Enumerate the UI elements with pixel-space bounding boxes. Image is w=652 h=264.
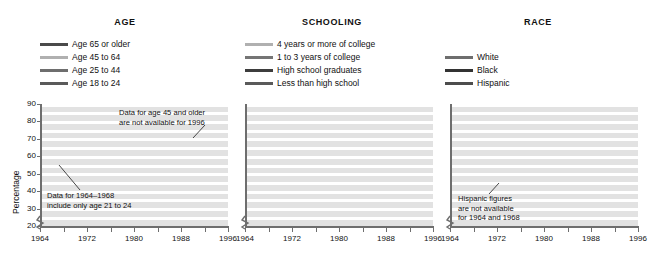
x-axis-tick-label: 1980: [120, 234, 148, 243]
x-axis-tick: [245, 228, 246, 232]
legend-label: Hispanic: [477, 78, 510, 88]
gridline: [245, 121, 433, 124]
legend-label: 4 years or more of college: [277, 39, 375, 49]
legend-item-white: White: [445, 51, 510, 63]
legend-label: Black: [477, 65, 498, 75]
legend-item-less-than-high-school: Less than high school: [245, 77, 375, 89]
x-axis-tick: [615, 228, 616, 232]
legend-swatch-icon: [245, 82, 273, 85]
annotation-leader-line-hispanic: [487, 182, 503, 196]
legend-label: Age 45 to 64: [72, 52, 120, 62]
x-axis-tick: [158, 228, 159, 232]
x-axis-tick: [410, 228, 411, 232]
legend-label: Age 18 to 24: [72, 78, 120, 88]
gridline: [450, 112, 638, 115]
x-axis-tick: [544, 228, 545, 232]
y-axis-tick-label: 40: [18, 186, 36, 195]
legend-item-age-65-or-older: Age 65 or older: [40, 38, 130, 50]
x-axis-tick: [64, 228, 65, 232]
legend-swatch-icon: [40, 82, 68, 85]
x-axis-tick-label: 1996: [624, 234, 652, 243]
gridline: [450, 165, 638, 168]
x-axis-tick: [205, 228, 206, 232]
legend-label: High school graduates: [277, 65, 362, 75]
legend-item-high-school-graduates: High school graduates: [245, 64, 375, 76]
gridline: [245, 104, 433, 107]
x-axis-tick: [497, 228, 498, 232]
annotation-line: are not available: [458, 204, 520, 214]
x-axis-tick: [181, 228, 182, 232]
gridline: [450, 182, 638, 185]
x-axis-tick: [386, 228, 387, 232]
gridline: [245, 147, 433, 150]
gridline: [245, 173, 433, 176]
gridline: [450, 121, 638, 124]
x-axis-tick-label: 1972: [73, 234, 101, 243]
gridline: [450, 138, 638, 141]
legend-swatch-icon: [40, 43, 68, 46]
legend-label: Age 25 to 44: [72, 65, 120, 75]
x-axis-tick-label: 1988: [577, 234, 605, 243]
y-axis-line-age: [40, 104, 42, 226]
x-axis-tick-label: 1964: [436, 234, 464, 243]
y-axis-line-schooling: [245, 104, 247, 226]
legend-item-hispanic: Hispanic: [445, 77, 510, 89]
legend-label: White: [477, 52, 499, 62]
legend-race: White Black Hispanic: [445, 51, 510, 90]
annotation-line: for 1964 and 1968: [458, 213, 520, 223]
legend-swatch-icon: [40, 56, 68, 59]
panel-title-schooling: SCHOOLING: [262, 17, 402, 27]
x-axis-tick: [111, 228, 112, 232]
legend-age: Age 65 or older Age 45 to 64 Age 25 to 4…: [40, 38, 130, 90]
legend-swatch-icon: [40, 69, 68, 72]
annotation-hispanic: Hispanic figures are not available for 1…: [458, 194, 520, 223]
gridline: [40, 217, 228, 220]
legend-swatch-icon: [445, 69, 473, 72]
annotation-leader-line-age-18: [58, 164, 84, 192]
x-axis-tick-label: 1972: [483, 234, 511, 243]
x-axis-tick: [40, 228, 41, 232]
x-axis-tick-label: 1972: [278, 234, 306, 243]
x-axis-tick: [292, 228, 293, 232]
plot-area-schooling: [245, 104, 433, 226]
legend-swatch-icon: [245, 69, 273, 72]
annotation-line: Data for age 45 and older: [119, 108, 205, 118]
x-axis-tick: [638, 228, 639, 232]
gridline: [245, 130, 433, 133]
y-axis-tick-label: 60: [18, 151, 36, 160]
legend-item-age-45-to-64: Age 45 to 64: [40, 51, 130, 63]
gridline: [245, 112, 433, 115]
legend-schooling: 4 years or more of college 1 to 3 years …: [245, 38, 375, 90]
annotation-age-18-24: Data for 1964–1968 include only age 21 t…: [47, 191, 131, 210]
legend-swatch-icon: [445, 56, 473, 59]
y-axis-tick-label: 20: [18, 221, 36, 230]
x-axis-tick-label: 1980: [530, 234, 558, 243]
gridline: [245, 199, 433, 202]
gridline: [450, 130, 638, 133]
y-axis-tick-label: 80: [18, 116, 36, 125]
gridline: [450, 173, 638, 176]
annotation-line: include only age 21 to 24: [47, 201, 131, 211]
y-axis-tick-label: 70: [18, 134, 36, 143]
annotation-line: Data for 1964–1968: [47, 191, 131, 201]
x-axis-tick: [433, 228, 434, 232]
x-axis-tick: [316, 228, 317, 232]
panel-title-age: AGE: [55, 17, 195, 27]
y-axis-tick-label: 30: [18, 204, 36, 213]
gridline: [245, 156, 433, 159]
gridline: [245, 138, 433, 141]
legend-swatch-icon: [445, 82, 473, 85]
legend-item-age-18-to-24: Age 18 to 24: [40, 77, 130, 89]
gridline: [245, 165, 433, 168]
x-axis-tick: [269, 228, 270, 232]
gridline: [450, 156, 638, 159]
x-axis-tick: [568, 228, 569, 232]
gridline: [450, 104, 638, 107]
gridline: [40, 104, 228, 107]
legend-label: 1 to 3 years of college: [277, 52, 360, 62]
legend-item-age-25-to-44: Age 25 to 44: [40, 64, 130, 76]
gridline: [450, 147, 638, 150]
gridline: [40, 147, 228, 150]
panel-title-race: RACE: [468, 17, 608, 27]
